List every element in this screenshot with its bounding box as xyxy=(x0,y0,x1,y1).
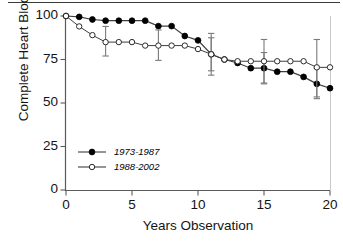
data-point-open xyxy=(301,59,306,64)
chart-plot-area: 1973-19871988-2002 xyxy=(0,0,343,243)
data-point-filled xyxy=(156,23,162,29)
data-point-open xyxy=(116,39,121,44)
data-point-filled xyxy=(182,33,188,39)
data-point-open xyxy=(129,39,134,44)
data-point-open xyxy=(169,43,174,48)
data-point-open xyxy=(90,32,95,37)
data-point-open xyxy=(327,65,332,70)
legend-label-2: 1988-2002 xyxy=(114,161,160,172)
data-point-filled xyxy=(169,23,175,29)
figure-panel: Complete Heart Block Years Observation 0… xyxy=(0,0,343,243)
data-point-open xyxy=(63,13,68,18)
data-point-open xyxy=(156,43,161,48)
data-point-filled xyxy=(248,65,254,71)
data-point-filled xyxy=(195,37,201,43)
data-point-open xyxy=(288,59,293,64)
data-point-open xyxy=(195,46,200,51)
data-point-open xyxy=(77,24,82,29)
data-point-open xyxy=(275,59,280,64)
data-point-filled xyxy=(90,17,96,23)
data-point-filled xyxy=(288,69,294,75)
data-point-open xyxy=(248,59,253,64)
data-point-filled xyxy=(129,18,135,24)
legend-label-1: 1973-1987 xyxy=(114,146,160,157)
data-point-filled xyxy=(142,18,148,24)
data-point-open xyxy=(103,39,108,44)
data-point-open xyxy=(182,43,187,48)
data-point-filled xyxy=(76,14,82,20)
data-point-open xyxy=(222,57,227,62)
data-point-open xyxy=(209,52,214,57)
data-point-filled xyxy=(301,74,307,80)
data-point-filled xyxy=(327,85,333,91)
data-point-filled xyxy=(103,18,109,24)
data-point-open xyxy=(314,65,319,70)
legend-marker-filled xyxy=(89,149,95,155)
data-point-filled xyxy=(116,18,122,24)
data-point-open xyxy=(143,43,148,48)
legend-marker-open xyxy=(89,164,94,169)
data-point-open xyxy=(261,59,266,64)
data-point-filled xyxy=(274,69,280,75)
data-point-open xyxy=(235,59,240,64)
